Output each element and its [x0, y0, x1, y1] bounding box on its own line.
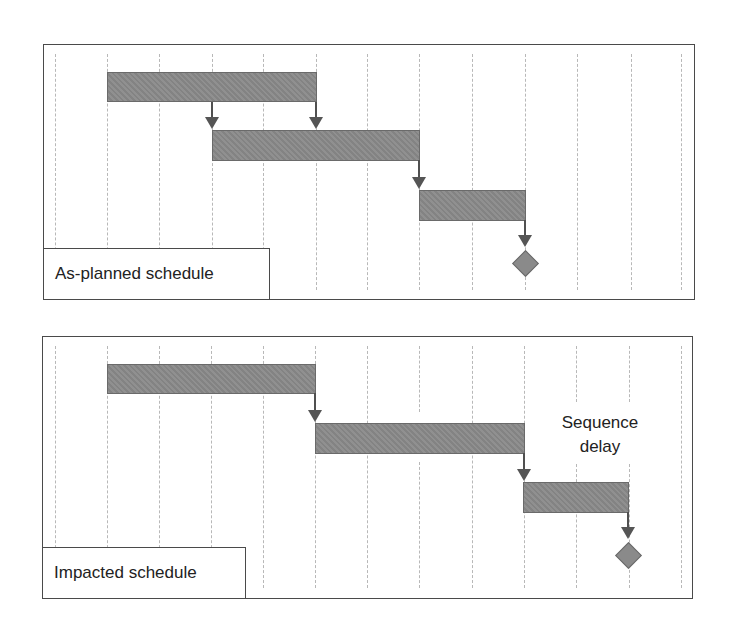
panel-label-text: Impacted schedule: [54, 563, 197, 583]
gridline: [367, 54, 368, 290]
gridline: [419, 462, 420, 588]
gridline: [367, 346, 368, 588]
gridline: [472, 346, 473, 588]
arrow-down-icon: [518, 235, 532, 247]
panel-label: As-planned schedule: [43, 248, 270, 300]
arrow-down-icon: [308, 410, 322, 422]
panel-label-text: As-planned schedule: [55, 264, 214, 284]
gridline: [576, 346, 577, 402]
arrow-down-icon: [309, 117, 323, 129]
task-bar-3: [419, 190, 526, 221]
arrow-down-icon: [205, 117, 219, 129]
gridline: [419, 346, 420, 412]
annotation-line-2: delay: [545, 435, 655, 459]
gridline: [631, 54, 632, 290]
gridline: [577, 54, 578, 290]
arrow-down-icon: [517, 469, 531, 481]
gridline: [681, 346, 682, 588]
task-bar-1: [107, 72, 317, 102]
gridline: [629, 346, 630, 402]
arrow-down-icon: [412, 177, 426, 189]
task-bar-2: [315, 423, 525, 454]
task-bar-1: [107, 364, 316, 394]
panel-label: Impacted schedule: [42, 547, 246, 599]
gridline: [681, 54, 682, 290]
gridline: [472, 54, 473, 290]
task-bar-3: [523, 482, 629, 513]
task-bar-2: [212, 130, 420, 161]
sequence-delay-annotation: Sequence delay: [545, 411, 655, 459]
annotation-line-1: Sequence: [545, 411, 655, 435]
gridline: [629, 464, 630, 588]
arrow-down-icon: [621, 527, 635, 539]
